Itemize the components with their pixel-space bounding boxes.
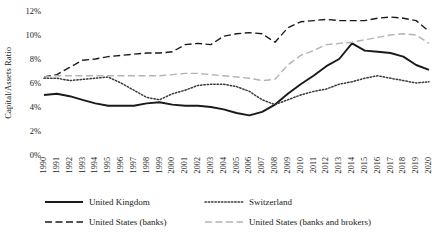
x-axis-tick-label: 2008 bbox=[271, 157, 279, 173]
x-axis-tick-label: 1999 bbox=[155, 157, 163, 173]
legend-line-swatch bbox=[204, 197, 244, 207]
x-axis-tick-label: 2002 bbox=[194, 157, 202, 173]
x-axis-tick-label: 2017 bbox=[386, 157, 394, 173]
legend-item[interactable]: United States (banks) bbox=[44, 217, 204, 227]
x-axis-tick-label: 1990 bbox=[40, 157, 48, 173]
legend-item-label: Switzerland bbox=[249, 197, 292, 207]
x-axis-tick-label: 2012 bbox=[322, 157, 330, 173]
legend-item-label: United Kingdom bbox=[89, 197, 150, 207]
legend-line-swatch bbox=[44, 197, 84, 207]
series-line bbox=[44, 43, 429, 115]
capital-assets-ratio-chart: Capital/Assets Ratio 0%2%4%6%8%10%12% 19… bbox=[0, 0, 434, 233]
x-axis-tick-label: 2020 bbox=[425, 157, 433, 173]
legend-item[interactable]: United States (banks and brokers) bbox=[204, 217, 426, 227]
x-axis-tick-label: 1991 bbox=[53, 157, 61, 173]
x-axis-tick-label: 2015 bbox=[361, 157, 369, 173]
x-axis-tick-label: 2013 bbox=[335, 157, 343, 173]
legend-line-swatch bbox=[44, 217, 84, 227]
x-axis-tick-label: 1992 bbox=[66, 157, 74, 173]
x-axis-tick-label: 2004 bbox=[220, 157, 228, 173]
series-line bbox=[44, 76, 429, 105]
x-axis-tick-label: 1998 bbox=[143, 157, 151, 173]
legend-line-swatch bbox=[204, 217, 244, 227]
x-axis-tick-label: 1993 bbox=[78, 157, 86, 173]
x-axis-tick-labels: 1990199119921993199419951996199719981999… bbox=[44, 157, 429, 191]
x-axis-tick-label: 2019 bbox=[412, 157, 420, 173]
legend-item[interactable]: United Kingdom bbox=[44, 197, 204, 207]
x-axis-tick-label: 2007 bbox=[258, 157, 266, 173]
x-axis-tick-label: 1996 bbox=[117, 157, 125, 173]
series-line bbox=[44, 34, 429, 81]
x-axis-tick-label: 1995 bbox=[104, 157, 112, 173]
legend-item-label: United States (banks and brokers) bbox=[249, 217, 371, 227]
x-axis-tick-label: 1994 bbox=[91, 157, 99, 173]
x-axis-tick-label: 2011 bbox=[309, 157, 317, 173]
chart-legend: United KingdomSwitzerlandUnited States (… bbox=[44, 192, 426, 232]
legend-item[interactable]: Switzerland bbox=[204, 197, 426, 207]
x-axis-tick-label: 2001 bbox=[181, 157, 189, 173]
series-line bbox=[44, 17, 429, 77]
x-axis-tick-label: 2016 bbox=[374, 157, 382, 173]
x-axis-tick-label: 1997 bbox=[130, 157, 138, 173]
x-axis-tick-label: 2010 bbox=[297, 157, 305, 173]
legend-item-label: United States (banks) bbox=[89, 217, 166, 227]
x-axis-tick-label: 2014 bbox=[348, 157, 356, 173]
x-axis-tick-label: 2005 bbox=[232, 157, 240, 173]
x-axis-tick-label: 2009 bbox=[284, 157, 292, 173]
x-axis-tick-label: 2018 bbox=[399, 157, 407, 173]
x-axis-tick-label: 2000 bbox=[168, 157, 176, 173]
x-axis-tick-label: 2006 bbox=[245, 157, 253, 173]
x-axis-tick-label: 2003 bbox=[207, 157, 215, 173]
